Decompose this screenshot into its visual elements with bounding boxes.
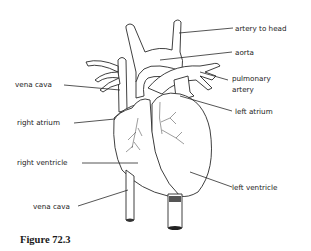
label-left-atrium: left atrium — [235, 108, 273, 115]
label-right-atrium: right atrium — [17, 119, 60, 126]
descending-aorta-opening — [168, 226, 182, 230]
leader-artery-to-head — [179, 28, 233, 33]
label-right-ventricle: right ventricle — [17, 159, 68, 166]
leader-right-atrium — [74, 119, 115, 123]
lower-vena-cava-opening — [126, 219, 134, 222]
label-pulmonary-artery-line1: pulmonary — [232, 75, 271, 82]
upper-vena-cava-shape — [118, 58, 127, 113]
label-aorta: aorta — [235, 49, 254, 56]
label-left-ventricle: left ventricle — [232, 184, 277, 191]
label-artery-to-head: artery to head — [235, 25, 287, 32]
figure-caption: Figure 72.3 — [20, 234, 71, 245]
label-vena-cava-upper: vena cava — [15, 81, 52, 88]
pulmonary-branch-left — [86, 61, 118, 72]
label-pulmonary-artery-line2: artery — [232, 86, 254, 93]
descending-aorta-shading — [169, 196, 181, 202]
lower-vena-cava-shape — [126, 170, 134, 222]
label-vena-cava-lower: vena cava — [33, 203, 70, 210]
leader-vena-cava-lower — [78, 190, 128, 206]
